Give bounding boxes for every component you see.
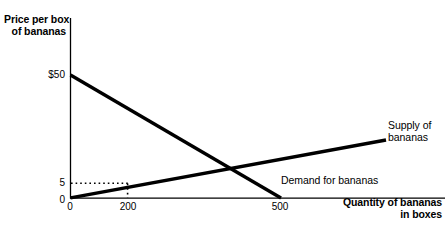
x-tick-label-200: 200	[111, 201, 145, 213]
y-tick-label-5: 5	[31, 177, 65, 189]
supply-curve-label: Supply ofbananas	[388, 119, 444, 144]
supply-curve	[71, 140, 387, 198]
y-axis-title-line-2: of bananas	[12, 25, 66, 37]
x-axis-title-line-1: Quantity of bananas	[343, 196, 442, 208]
y-axis-title-line-1: Price per box	[4, 13, 69, 25]
y-axis-title: Price per boxof bananas	[4, 13, 66, 38]
y-tick-label-50: $50	[31, 69, 65, 81]
supply-curve-label-line-1: Supply of	[388, 119, 431, 131]
x-axis-title: Quantity of bananasin boxes	[337, 196, 442, 221]
supply-demand-chart: Price per boxof bananas Quantity of bana…	[0, 0, 445, 232]
demand-curve-label: Demand for bananas	[281, 174, 401, 186]
x-axis-title-line-2: in boxes	[400, 208, 442, 220]
x-tick-label-0: 0	[53, 201, 87, 213]
x-tick-label-500: 500	[263, 201, 297, 213]
supply-curve-label-line-2: bananas	[388, 131, 428, 143]
